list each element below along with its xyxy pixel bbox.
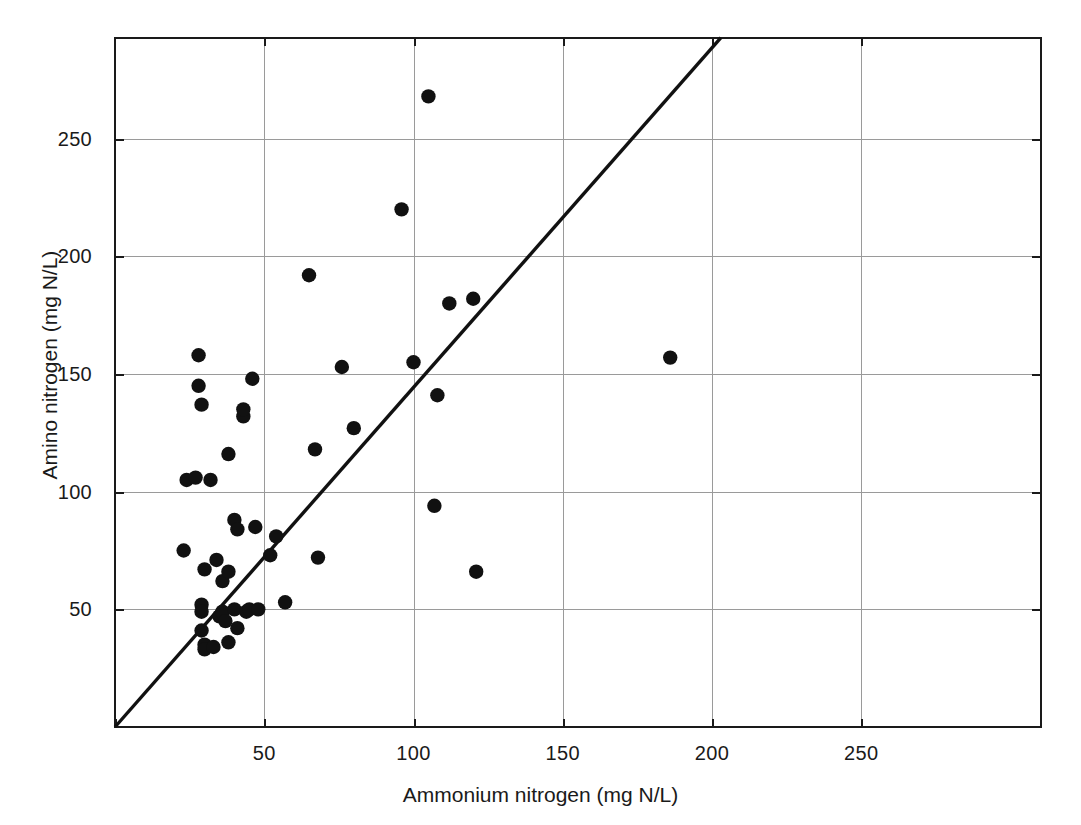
x-tick-label: 200 [695, 742, 729, 765]
scatter-plot-figure: 50100150200250 50100150200250 Ammonium n… [0, 0, 1081, 825]
y-axis-title-wrapper: Amino nitrogen (mg N/L) [38, 20, 62, 711]
plot-frame [114, 37, 1042, 728]
x-tick-label: 100 [396, 742, 430, 765]
x-tick-label: 150 [546, 742, 580, 765]
x-tick-label: 50 [253, 742, 276, 765]
x-axis-title: Ammonium nitrogen (mg N/L) [0, 783, 1081, 807]
y-axis-title: Amino nitrogen (mg N/L) [38, 251, 61, 480]
x-tick-label: 250 [844, 742, 878, 765]
